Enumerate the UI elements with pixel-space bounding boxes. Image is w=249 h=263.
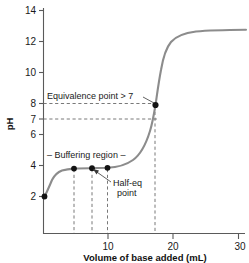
y-tick-label-14: 14 (25, 5, 37, 16)
marker-buffer-point-low (71, 166, 77, 172)
y-axis-title: pH (4, 118, 15, 131)
y-tick-label-10: 10 (25, 67, 37, 78)
y-tick-label-12: 12 (25, 36, 37, 47)
x-tick-label-10: 10 (102, 241, 114, 252)
x-tick-label-30: 30 (234, 241, 246, 252)
equivalence-point-annotation: Equivalence point > 7 (47, 91, 133, 101)
chart-figure: 14 12 10 8 7 6 4 2 10 20 30 Volume of ba… (0, 0, 249, 263)
y-tick-label-2: 2 (30, 191, 36, 202)
chart-background (0, 0, 249, 263)
y-tick-label-7: 7 (30, 114, 36, 125)
titration-curve-chart: 14 12 10 8 7 6 4 2 10 20 30 Volume of ba… (0, 0, 249, 263)
y-tick-label-8: 8 (30, 98, 36, 109)
marker-buffer-point-high (105, 165, 111, 171)
y-tick-label-6: 6 (30, 129, 36, 140)
marker-start-point (42, 194, 48, 200)
x-tick-label-20: 20 (167, 241, 179, 252)
x-axis-title: Volume of base added (mL) (83, 252, 206, 263)
y-tick-label-4: 4 (30, 160, 36, 171)
half-eq-annotation-line2: point (117, 188, 137, 198)
half-eq-annotation-line1: Half-eq (113, 178, 142, 188)
buffering-region-annotation: – Buffering region – (47, 150, 125, 160)
